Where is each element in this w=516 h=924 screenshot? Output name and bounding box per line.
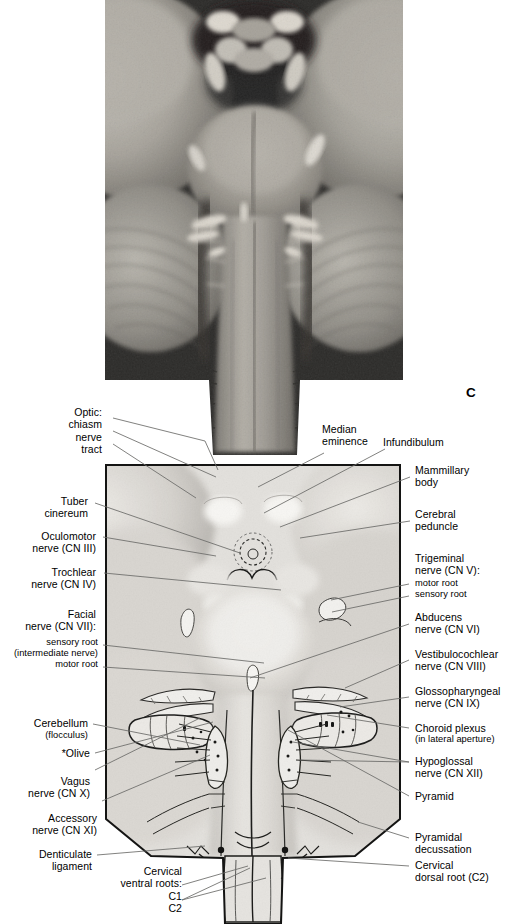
label-cerebral-peduncle: Cerebral peduncle bbox=[415, 508, 516, 533]
label-pyramid: Pyramid bbox=[415, 790, 516, 802]
label-cerebellum-flocculus: (flocculus) bbox=[0, 730, 88, 741]
label-accessory-nerve: Accessory nerve (CN XI) bbox=[0, 812, 97, 837]
label-olive: *Olive bbox=[0, 747, 90, 759]
label-median-eminence: Median eminence bbox=[322, 423, 384, 448]
label-tuber-cinereum: Tuber cinereum bbox=[0, 495, 88, 520]
label-glossopharyngeal-nerve: Glossopharyngeal nerve (CN IX) bbox=[415, 685, 516, 710]
brainstem-diagram bbox=[105, 464, 401, 924]
label-facial-nerve: Facial nerve (CN VII): bbox=[0, 608, 96, 633]
label-trigeminal-nerve-roots: motor root sensory root bbox=[415, 578, 516, 600]
label-hypoglossal-nerve: Hypoglossal nerve (CN XII) bbox=[415, 755, 516, 780]
label-cervical-dorsal-root: Cervical dorsal root (C2) bbox=[415, 859, 516, 884]
label-trochlear-nerve: Trochlear nerve (CN IV) bbox=[0, 566, 96, 591]
photograph-image bbox=[105, 0, 403, 455]
label-cervical-ventral-root-c1: C1 bbox=[120, 890, 182, 902]
label-mammillary-body: Mammillary body bbox=[415, 464, 516, 489]
label-pyramidal-decussation: Pyramidal decussation bbox=[415, 831, 516, 856]
label-vagus-nerve: Vagus nerve (CN X) bbox=[0, 775, 90, 800]
label-oculomotor-nerve: Oculomotor nerve (CN III) bbox=[0, 530, 96, 555]
label-optic: Optic: chiasm nerve tract bbox=[0, 406, 102, 456]
label-cerebellum: Cerebellum bbox=[0, 717, 88, 729]
label-cervical-ventral-root-c2: C2 bbox=[120, 902, 182, 914]
label-infundibulum: Infundibulum bbox=[383, 436, 473, 448]
label-cervical-ventral-roots: Cervical ventral roots: bbox=[60, 865, 182, 890]
label-choroid-plexus: Choroid plexus bbox=[415, 722, 516, 734]
panel-letter: C bbox=[466, 385, 476, 400]
anatomical-figure: C bbox=[0, 0, 516, 924]
label-facial-nerve-roots: sensory root (intermediate nerve) motor … bbox=[0, 637, 98, 671]
label-trigeminal-nerve: Trigeminal nerve (CN V): bbox=[415, 552, 516, 577]
brainstem-photograph bbox=[105, 0, 403, 455]
label-vestibulocochlear-nerve: Vestibulocochlear nerve (CN VIII) bbox=[415, 648, 516, 673]
label-abducens-nerve: Abducens nerve (CN VI) bbox=[415, 611, 516, 636]
diagram-image bbox=[105, 464, 401, 924]
label-choroid-plexus-detail: (in lateral aperture) bbox=[415, 734, 516, 745]
